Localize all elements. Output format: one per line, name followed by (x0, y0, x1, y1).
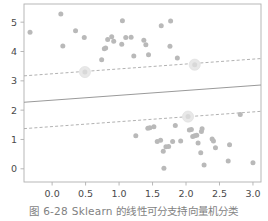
x-tick-label: 0.0 (45, 188, 60, 199)
data-point-marker (129, 35, 134, 40)
data-point-marker (166, 144, 171, 149)
data-point-marker (168, 19, 173, 24)
data-point-marker (133, 133, 138, 138)
data-point-marker (226, 158, 231, 163)
data-point-marker (146, 52, 151, 57)
x-tick-label: 2.0 (178, 188, 193, 199)
data-point-marker (200, 126, 205, 131)
data-point-marker (211, 138, 216, 143)
scatter-plot: 0.00.51.01.52.02.53.0 012345 (0, 0, 268, 200)
y-tick-label: 0 (11, 163, 17, 174)
data-point-marker (194, 133, 199, 138)
data-point-marker (192, 62, 197, 67)
data-point-marker (141, 38, 146, 43)
data-point-marker (198, 150, 203, 155)
data-point-marker (73, 28, 78, 33)
data-point-marker (161, 166, 166, 171)
data-point-marker (178, 138, 183, 143)
data-point-marker (109, 34, 114, 39)
data-point-marker (143, 42, 148, 47)
plot-svg: 0.00.51.01.52.02.53.0 012345 (0, 0, 268, 200)
caption-number: 图 6-28 (29, 205, 67, 217)
data-point-marker (189, 127, 194, 132)
y-tick-label: 1 (11, 134, 17, 145)
data-point-marker (213, 145, 218, 150)
x-tick-label: 2.5 (212, 188, 227, 199)
caption-text: Sklearn 的线性可分支持向量机分类 (72, 205, 239, 217)
x-tick-label: 1.5 (145, 188, 160, 199)
data-point-marker (103, 45, 108, 50)
data-point-marker (227, 142, 232, 147)
data-point-marker (158, 138, 163, 143)
data-point-marker (123, 35, 128, 40)
figure-caption: 图 6-28Sklearn 的线性可分支持向量机分类 (0, 203, 268, 218)
data-point-marker (202, 162, 207, 167)
data-point-marker (60, 43, 65, 48)
data-point-marker (111, 39, 116, 44)
y-tick-label: 4 (11, 46, 17, 57)
x-tick-label: 0.5 (78, 188, 93, 199)
data-point-marker (175, 55, 180, 60)
data-point-marker (82, 35, 87, 40)
data-point-marker (120, 18, 125, 23)
data-point-marker (99, 57, 104, 62)
data-point-marker (119, 42, 124, 47)
data-point-marker (58, 11, 63, 16)
y-tick-label: 2 (11, 105, 17, 116)
data-point-marker (186, 114, 191, 119)
data-point-marker (196, 140, 201, 145)
y-tick-label: 3 (11, 75, 17, 86)
data-point-marker (28, 30, 33, 35)
y-tick-label: 5 (11, 17, 17, 28)
data-point-marker (159, 23, 164, 28)
data-point-marker (131, 53, 136, 58)
plot-background (0, 0, 268, 200)
data-point-marker (151, 124, 156, 129)
data-point-marker (238, 112, 243, 117)
data-point-marker (82, 70, 87, 75)
data-point-marker (250, 160, 255, 165)
x-tick-label: 1.0 (112, 188, 127, 199)
data-point-marker (161, 149, 166, 154)
data-point-marker (167, 44, 172, 49)
data-point-marker (173, 123, 178, 128)
data-point-marker (170, 139, 175, 144)
figure-container: 0.00.51.01.52.02.53.0 012345 图 6-28Sklea… (0, 0, 268, 221)
x-tick-label: 3.0 (245, 188, 260, 199)
